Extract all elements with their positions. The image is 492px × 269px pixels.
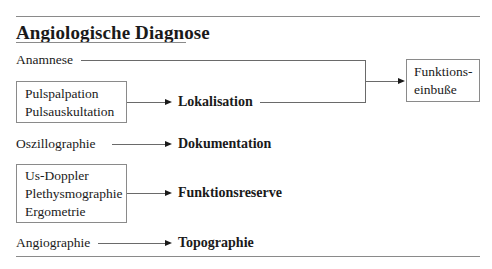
method-anamnese: Anamnese xyxy=(16,52,73,68)
outcome-line2: einbuße xyxy=(414,81,479,99)
lokalisation-connector xyxy=(260,102,365,103)
outcome-line1: Funktions- xyxy=(414,63,479,81)
arrow-icon xyxy=(165,240,172,246)
outcome-box: Funktions- einbuße xyxy=(406,59,480,102)
bottom-rule xyxy=(16,256,480,257)
method-pulspalpation: Pulspalpation xyxy=(25,85,126,103)
result-funktionsreserve: Funktionsreserve xyxy=(178,185,282,201)
arrow-icon xyxy=(165,190,172,196)
bracket-arrow-line xyxy=(365,81,399,82)
arrow-icon xyxy=(165,141,172,147)
title-underline xyxy=(16,42,186,43)
method-angiographie: Angiographie xyxy=(16,235,90,251)
method-box-function: Us-Doppler Plethysmographie Ergometrie xyxy=(16,164,127,223)
angio-arrow-line xyxy=(98,243,167,244)
anamnese-connector xyxy=(81,60,365,61)
box2-arrow-line xyxy=(127,193,167,194)
method-us-doppler: Us-Doppler xyxy=(25,167,126,185)
method-ergometrie: Ergometrie xyxy=(25,203,126,221)
method-oszillographie: Oszillographie xyxy=(16,136,95,152)
method-pulsauskultation: Pulsauskultation xyxy=(25,103,126,121)
arrow-icon xyxy=(398,78,405,84)
arrow-icon xyxy=(165,99,172,105)
method-box-palpation: Pulspalpation Pulsauskultation xyxy=(16,81,127,123)
box1-arrow-line xyxy=(127,102,167,103)
result-lokalisation: Lokalisation xyxy=(178,94,253,110)
result-dokumentation: Dokumentation xyxy=(178,136,271,152)
oszillo-arrow-line xyxy=(112,144,167,145)
method-plethysmographie: Plethysmographie xyxy=(25,185,126,203)
top-rule xyxy=(16,16,480,17)
result-topographie: Topographie xyxy=(178,235,254,251)
diagram-title: Angiologische Diagnose xyxy=(16,22,210,44)
